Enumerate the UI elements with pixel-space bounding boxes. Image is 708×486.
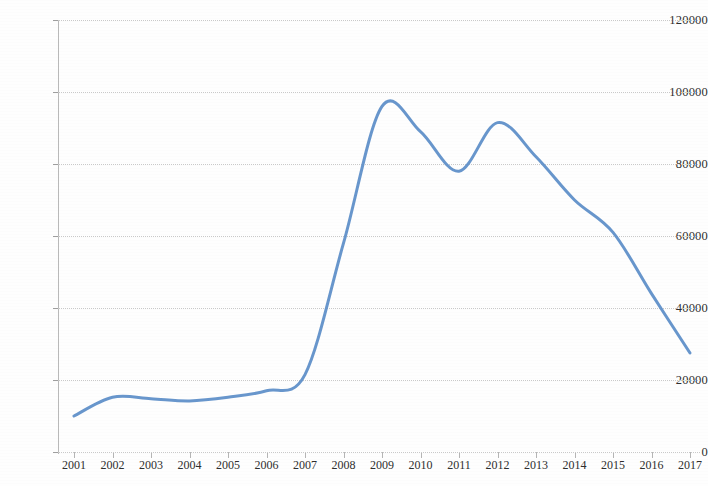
x-axis-tick-label: 2015 [601,458,625,472]
x-axis-tick-label: 2007 [293,458,317,472]
gridline [58,452,700,453]
line-chart: 020000400006000080000100000120000 200120… [0,0,708,486]
x-axis-tick-label: 2014 [563,458,587,472]
x-axis-tick-label: 2009 [370,458,394,472]
x-axis-tick-label: 2011 [447,458,471,472]
x-axis-tick-label: 2012 [486,458,510,472]
x-axis-tick-label: 2006 [255,458,279,472]
x-axis-tick-label: 2017 [678,458,702,472]
plot-area [58,20,700,452]
x-axis-tick-label: 2016 [640,458,664,472]
x-axis-tick-label: 2010 [409,458,433,472]
x-axis-tick-label: 2008 [332,458,356,472]
x-axis-tick-label: 2004 [178,458,202,472]
x-axis-tick-label: 2005 [216,458,240,472]
data-series-line [74,101,690,416]
x-axis-tick-label: 2001 [62,458,86,472]
x-axis-tick-label: 2002 [101,458,125,472]
series-canvas [58,20,700,452]
x-axis-tick-label: 2003 [139,458,163,472]
x-axis-tick-label: 2013 [524,458,548,472]
